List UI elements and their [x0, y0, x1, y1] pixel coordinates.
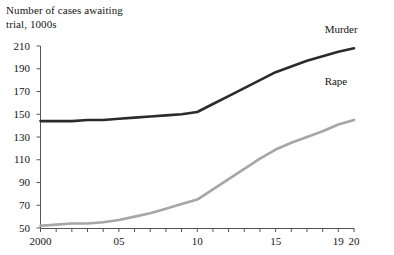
data-series-lines: [41, 48, 355, 225]
y-axis-tick-label: 190: [4, 63, 30, 74]
x-axis-tick-label: 05: [113, 236, 124, 247]
x-axis-tick-label: 2000: [30, 236, 52, 247]
x-axis-tick-label: 20: [349, 236, 360, 247]
line-chart: Number of cases awaiting trial, 1000s 21…: [0, 0, 394, 255]
series-line-murder: [41, 48, 355, 121]
series-line-rape: [41, 120, 355, 226]
series-label-rape: Rape: [325, 76, 348, 87]
y-axis-tick-label: 130: [4, 132, 30, 143]
y-axis-tick-label: 150: [4, 109, 30, 120]
y-axis-tick-label: 210: [4, 41, 30, 52]
y-axis-tick-label: 110: [4, 154, 30, 165]
x-axis-tick-label: 10: [192, 236, 203, 247]
x-axis-tick-label: 19: [333, 236, 344, 247]
y-axis-tick-label: 50: [4, 223, 30, 234]
y-axis-tick-label: 170: [4, 86, 30, 97]
series-label-murder: Murder: [325, 24, 358, 35]
x-axis-tick-label: 15: [270, 236, 281, 247]
chart-plot-area: [0, 0, 394, 255]
y-axis-ticks: [37, 46, 41, 228]
y-axis-tick-label: 90: [4, 177, 30, 188]
y-axis-tick-label: 70: [4, 200, 30, 211]
x-axis-ticks: [41, 228, 355, 232]
